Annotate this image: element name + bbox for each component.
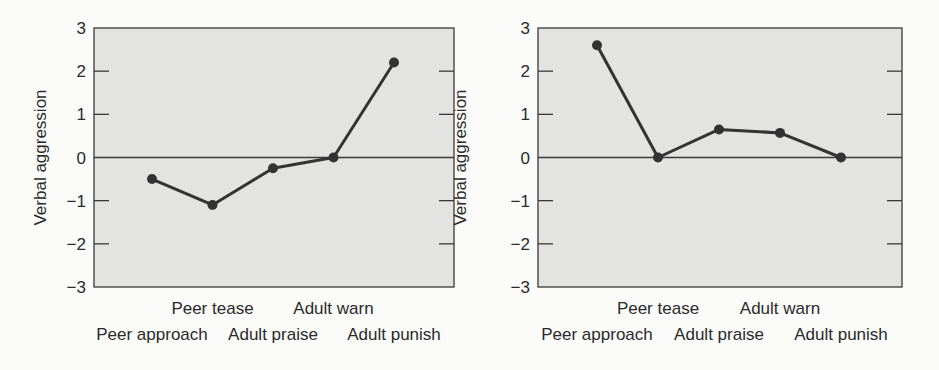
data-point (389, 58, 399, 68)
y-tick-label: −2 (511, 235, 530, 254)
x-category-label: Peer tease (617, 299, 699, 318)
data-point (714, 124, 724, 134)
y-tick-label: 1 (521, 105, 530, 124)
y-tick-label: 0 (77, 149, 86, 168)
data-point (836, 153, 846, 163)
chart-left: 3210−1−2−3Verbal aggressionPeer approach… (0, 0, 470, 370)
chart-left-svg: 3210−1−2−3Verbal aggressionPeer approach… (0, 0, 470, 370)
data-point (208, 200, 218, 210)
y-tick-label: 0 (521, 149, 530, 168)
y-tick-label: 2 (521, 62, 530, 81)
y-tick-label: 3 (521, 19, 530, 38)
x-category-label: Peer approach (96, 325, 208, 344)
chart-right: 3210−1−2−3Verbal aggressionPeer approach… (444, 0, 939, 370)
chart-right-svg: 3210−1−2−3Verbal aggressionPeer approach… (444, 0, 939, 370)
x-category-label: Adult praise (674, 325, 764, 344)
x-category-label: Adult praise (228, 325, 318, 344)
data-point (775, 128, 785, 138)
y-tick-label: −1 (511, 192, 530, 211)
y-tick-label: −1 (67, 192, 86, 211)
y-tick-label: 3 (77, 19, 86, 38)
x-category-label: Adult punish (347, 325, 441, 344)
y-tick-label: −3 (67, 278, 86, 297)
x-category-label: Adult punish (794, 325, 888, 344)
x-category-label: Peer approach (541, 325, 653, 344)
y-tick-label: −2 (67, 235, 86, 254)
y-tick-label: −3 (511, 278, 530, 297)
y-axis-label: Verbal aggression (31, 89, 50, 225)
x-category-label: Peer tease (171, 299, 253, 318)
data-point (268, 163, 278, 173)
x-category-label: Adult warn (293, 299, 373, 318)
y-tick-label: 1 (77, 105, 86, 124)
y-axis-label: Verbal aggression (451, 89, 470, 225)
data-point (653, 153, 663, 163)
data-point (329, 153, 339, 163)
x-category-label: Adult warn (740, 299, 820, 318)
y-tick-label: 2 (77, 62, 86, 81)
data-point (592, 40, 602, 50)
data-point (147, 174, 157, 184)
